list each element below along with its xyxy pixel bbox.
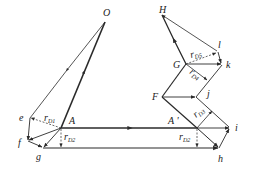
label-A-prime: A '	[167, 115, 179, 126]
label-i: i	[235, 122, 238, 133]
label-f: f	[18, 137, 22, 148]
label-F: F	[151, 91, 159, 102]
line-f-g	[28, 141, 42, 147]
line-h-i	[219, 129, 229, 148]
line-Aprime-h	[197, 128, 218, 147]
line-OA	[61, 22, 105, 128]
line-G-H	[162, 15, 186, 64]
label-e: e	[19, 112, 24, 123]
line-e-f	[28, 118, 30, 140]
label-G: G	[173, 59, 180, 70]
label-A: A	[68, 115, 76, 126]
label-O: O	[103, 7, 110, 18]
line-Oe	[30, 22, 105, 118]
label-rD2-right: rD2	[179, 131, 190, 143]
label-l: l	[218, 39, 221, 50]
label-g: g	[36, 151, 41, 162]
label-rD4: rD4	[187, 66, 203, 82]
label-h: h	[218, 153, 223, 164]
vector-diagram: O A A ' e f g h i F j G k l H rD1 rD2 rD…	[0, 0, 253, 176]
label-H: H	[158, 4, 167, 15]
diagram-canvas: O A A ' e f g h i F j G k l H rD1 rD2 rD…	[0, 0, 253, 176]
line-l-k	[218, 52, 221, 63]
label-k: k	[226, 59, 231, 70]
label-j: j	[205, 88, 210, 99]
label-rD3: rD3	[190, 104, 206, 120]
label-rD2-left: rD2	[64, 131, 75, 143]
label-rD1: rD1	[44, 112, 55, 124]
